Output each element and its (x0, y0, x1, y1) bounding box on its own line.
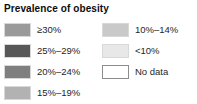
legend-item-label: 15%–19% (37, 87, 80, 98)
legend-title: Prevalence of obesity (4, 3, 197, 15)
legend-color-swatch (102, 44, 129, 58)
legend-item-label: <10% (135, 45, 160, 56)
legend-color-swatch (4, 65, 31, 79)
map-legend: Prevalence of obesity ≥30% 25%–29% 20%–2… (0, 0, 197, 104)
legend-item-label: 20%–24% (37, 66, 80, 77)
legend-item: 15%–19% (4, 82, 102, 103)
legend-color-swatch (4, 44, 31, 58)
legend-column-left: ≥30% 25%–29% 20%–24% 15%–19% (4, 19, 102, 103)
legend-color-swatch (102, 23, 129, 37)
legend-color-swatch (4, 23, 31, 37)
legend-item: 10%–14% (102, 19, 197, 40)
legend-color-swatch (102, 65, 129, 79)
legend-item-label: No data (135, 66, 168, 77)
legend-item: 25%–29% (4, 40, 102, 61)
legend-item-label: 25%–29% (37, 45, 80, 56)
legend-item: 20%–24% (4, 61, 102, 82)
legend-color-swatch (4, 86, 31, 100)
legend-item-label: 10%–14% (135, 24, 178, 35)
legend-item: No data (102, 61, 197, 82)
legend-column-right: 10%–14% <10% No data (102, 19, 197, 82)
legend-item-label: ≥30% (37, 24, 61, 35)
legend-columns: ≥30% 25%–29% 20%–24% 15%–19% 10%–14% (4, 19, 197, 103)
legend-item: ≥30% (4, 19, 102, 40)
legend-item: <10% (102, 40, 197, 61)
